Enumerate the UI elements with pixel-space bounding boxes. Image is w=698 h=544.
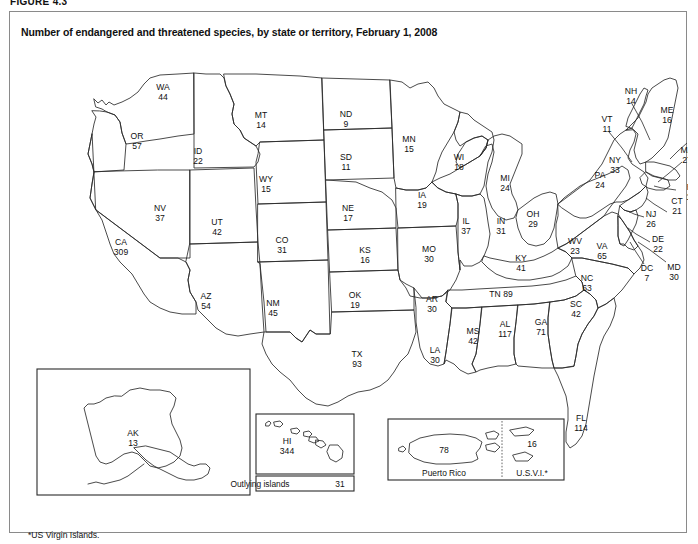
state-abbr: WI	[454, 152, 465, 162]
state-abbr: TX	[352, 349, 363, 359]
state-value: 16	[662, 115, 672, 125]
state-value: 15	[261, 184, 271, 194]
state-value: 18	[686, 192, 688, 202]
state-abbr: DE	[652, 234, 664, 244]
state-value: 63	[582, 283, 592, 293]
state-value: 21	[672, 206, 682, 216]
state-abbr: MT	[255, 110, 268, 120]
hawaii-value: 344	[280, 446, 295, 456]
state-abbr: AR	[426, 294, 438, 304]
state-label-nc: NC63	[581, 273, 593, 293]
state-label-nv: NV37	[154, 203, 166, 223]
state-abbr: IA	[418, 190, 426, 200]
state-label-ri: RI18	[686, 182, 688, 202]
state-value: 37	[461, 226, 471, 236]
state-label-co: CO31	[276, 235, 289, 255]
state-abbr: VT	[602, 114, 614, 124]
state-abbr: NY	[609, 155, 621, 165]
state-abbr: IL	[462, 216, 469, 226]
us-map: WA44OR57ID22MT14WY15NV37UT42CO31CA309AZ5…	[10, 12, 688, 534]
state-label-nm: NM45	[266, 298, 279, 318]
state-abbr: WA	[156, 82, 170, 92]
state-abbr: WV	[568, 236, 582, 246]
puerto-rico-caption: Puerto Rico	[422, 468, 466, 478]
hawaii-abbr: HI	[283, 436, 292, 446]
state-abbr: NC	[581, 273, 593, 283]
state-value: 41	[516, 263, 526, 273]
usvi-value: 16	[527, 439, 537, 449]
hawaii-inset: HI344Outlying islands31	[230, 414, 354, 491]
state-label-oh: OH29	[527, 209, 540, 229]
state-value: 57	[132, 141, 142, 151]
state-label-ma: MA27	[681, 145, 688, 165]
state-value: 17	[343, 213, 353, 223]
state-value: 309	[114, 247, 129, 257]
state-value: 33	[610, 165, 620, 175]
state-abbr: PA	[595, 170, 606, 180]
state-value: 14	[256, 120, 266, 130]
state-abbr: NH	[625, 86, 637, 96]
state-label-id: ID22	[193, 146, 203, 166]
state-label-de: DE22	[652, 234, 664, 254]
state-label-az: AZ54	[201, 291, 212, 311]
state-value: 114	[574, 423, 588, 433]
state-value: 24	[595, 180, 605, 190]
state-abbr: MA	[681, 145, 688, 155]
state-value: 71	[536, 327, 546, 337]
state-abbr: IN	[497, 216, 506, 226]
state-value: 26	[646, 219, 656, 229]
state-value: 22	[653, 244, 663, 254]
state-abbr: OH	[527, 209, 540, 219]
state-label-ga: GA71	[535, 317, 548, 337]
state-value: 18	[454, 162, 464, 172]
state-value: 45	[268, 308, 278, 318]
state-label-pa: PA24	[595, 170, 606, 190]
state-label-nd: ND9	[340, 109, 352, 129]
puerto-rico-value: 78	[439, 445, 449, 455]
state-abbr: VA	[597, 241, 608, 251]
state-abbr: SD	[340, 152, 352, 162]
state-abbr: NE	[342, 203, 354, 213]
outlying-islands-value: 31	[335, 479, 345, 489]
state-value: 9	[344, 119, 349, 129]
state-label-ne: NE17	[342, 203, 354, 223]
state-value: 65	[597, 251, 607, 261]
state-label-tx: TX93	[352, 349, 363, 369]
state-value: 31	[496, 226, 506, 236]
svg-text:TN 89: TN 89	[489, 289, 513, 299]
state-abbr: MO	[422, 244, 436, 254]
state-label-mn: MN15	[402, 134, 415, 154]
state-label-md: MD30	[667, 262, 680, 282]
state-value: 42	[212, 227, 222, 237]
state-abbr: ND	[340, 109, 352, 119]
state-abbr: NJ	[646, 209, 657, 219]
state-value: 16	[360, 255, 370, 265]
state-abbr: CO	[276, 235, 289, 245]
leader-lines	[609, 102, 687, 264]
state-value: 30	[430, 355, 440, 365]
state-label-mi: MI24	[500, 173, 510, 193]
state-label-mt: MT14	[255, 110, 268, 130]
state-label-ky: KY41	[515, 253, 527, 273]
state-label-in: IN31	[496, 216, 506, 236]
state-label-nj: NJ26	[646, 209, 657, 229]
state-value: 93	[352, 359, 362, 369]
outlying-islands-caption: Outlying islands	[230, 479, 289, 489]
state-abbr: LA	[430, 345, 441, 355]
state-value: 44	[158, 92, 168, 102]
state-abbr: NV	[154, 203, 166, 213]
state-value: 7	[645, 273, 650, 283]
state-value: 30	[424, 254, 434, 264]
state-label-fl: FL114	[574, 413, 588, 433]
state-label-ut: UT42	[211, 217, 223, 237]
state-value: 22	[193, 156, 203, 166]
state-abbr: GA	[535, 317, 548, 327]
state-label-wi: WI18	[454, 152, 465, 172]
state-value: 30	[669, 272, 679, 282]
state-value: 19	[417, 200, 427, 210]
state-abbr: AL	[500, 319, 511, 329]
state-value: 11	[603, 124, 612, 134]
state-value: 27	[682, 155, 688, 165]
state-value: 24	[500, 183, 510, 193]
state-label-al: AL117	[498, 319, 512, 339]
